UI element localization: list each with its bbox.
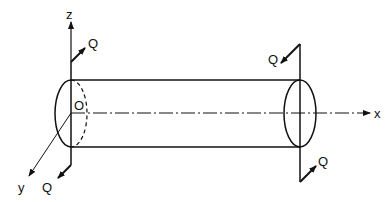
force-bottom-left: Q: [42, 165, 71, 195]
force-label-top-right: Q: [268, 52, 278, 67]
force-top-right: Q: [268, 44, 300, 67]
force-bottom-right: Q: [300, 154, 328, 182]
x-axis: x: [71, 106, 381, 121]
left-ellipse-front: [55, 80, 71, 147]
force-top-left: Q: [71, 36, 98, 62]
force-arrow-top-right: [281, 44, 300, 63]
force-arrow-top-left: [71, 48, 85, 62]
force-label-bottom-right: Q: [318, 154, 328, 169]
z-axis: z: [66, 7, 73, 62]
z-axis-label: z: [66, 7, 73, 22]
origin-label: O: [74, 98, 84, 113]
force-label-top-left: Q: [88, 36, 98, 51]
force-label-bottom-left: Q: [42, 180, 52, 195]
y-axis-label: y: [18, 180, 25, 195]
force-arrow-bottom-left: [58, 165, 71, 178]
force-arrow-bottom-right: [300, 166, 316, 182]
cylinder-diagram: x z y O Q Q Q Q: [0, 0, 392, 202]
x-axis-label: x: [374, 106, 381, 121]
